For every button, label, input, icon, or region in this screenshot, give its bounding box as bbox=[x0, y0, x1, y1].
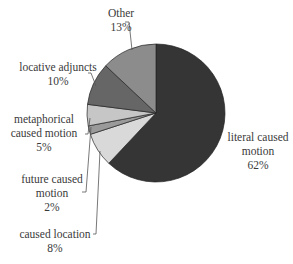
label-caused-location-pct: 8% bbox=[12, 241, 98, 255]
label-metaphorical-line2: caused motion bbox=[2, 126, 86, 140]
label-metaphorical-line1: metaphorical bbox=[2, 112, 86, 126]
label-literal-line1: literal caused bbox=[222, 130, 293, 144]
leader-caused-location bbox=[93, 151, 100, 234]
label-literal-pct: 62% bbox=[222, 158, 293, 172]
label-locative-pct: 10% bbox=[8, 74, 108, 88]
label-caused-location: caused location 8% bbox=[12, 227, 98, 255]
label-caused-location-name: caused location bbox=[12, 227, 98, 241]
label-future-pct: 2% bbox=[16, 200, 88, 214]
label-locative-name: locative adjuncts bbox=[8, 60, 108, 74]
label-future-line1: future caused bbox=[16, 172, 88, 186]
label-other-name: Other bbox=[98, 6, 144, 20]
label-other-pct: 13% bbox=[98, 20, 144, 34]
label-literal-line2: motion bbox=[222, 144, 293, 158]
label-metaphorical-caused-motion: metaphorical caused motion 5% bbox=[2, 112, 86, 154]
label-locative-adjuncts: locative adjuncts 10% bbox=[8, 60, 108, 88]
label-future-line2: motion bbox=[16, 186, 88, 200]
label-future-caused-motion: future caused motion 2% bbox=[16, 172, 88, 214]
label-metaphorical-pct: 5% bbox=[2, 140, 86, 154]
label-literal-caused-motion: literal caused motion 62% bbox=[222, 130, 293, 172]
label-other: Other 13% bbox=[98, 6, 144, 34]
